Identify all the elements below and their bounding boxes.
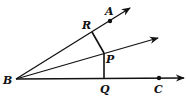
angle-bisector-diagram: A R P B Q C xyxy=(0,0,186,97)
label-a: A xyxy=(104,5,114,18)
ray-ba xyxy=(16,8,130,79)
segment-pr xyxy=(92,32,104,53)
label-r: R xyxy=(81,19,91,32)
point-c-dot xyxy=(157,76,161,80)
label-p: P xyxy=(105,53,115,66)
label-q: Q xyxy=(100,83,110,96)
label-c: C xyxy=(154,83,163,96)
ray-bisector xyxy=(16,38,158,79)
label-b: B xyxy=(2,74,12,87)
point-a-dot xyxy=(108,19,112,23)
